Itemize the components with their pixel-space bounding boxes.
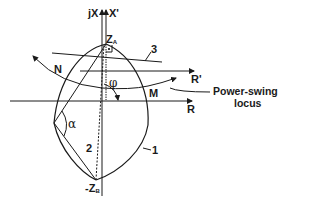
lens-label: 1 bbox=[152, 145, 158, 156]
alpha-angle-label: α bbox=[68, 118, 76, 130]
r-prime-axis-label: R' bbox=[191, 74, 202, 85]
phi-angle-label: φ bbox=[109, 77, 117, 89]
zb-label: -ZB bbox=[85, 183, 100, 194]
jx-axis-label: jX bbox=[88, 8, 98, 19]
line-2-label: 2 bbox=[86, 143, 92, 154]
line-3-label: 3 bbox=[151, 44, 157, 55]
power-swing-annotation-line2: locus bbox=[234, 98, 261, 109]
r-axis-label: R bbox=[187, 104, 195, 115]
m-label: M bbox=[149, 88, 158, 99]
power-swing-annotation-line1: Power-swing bbox=[213, 86, 278, 97]
line-2 bbox=[96, 44, 104, 180]
za-label: ZA bbox=[106, 34, 117, 45]
x-prime-axis-label: X' bbox=[109, 8, 119, 19]
n-label: N bbox=[54, 64, 62, 75]
